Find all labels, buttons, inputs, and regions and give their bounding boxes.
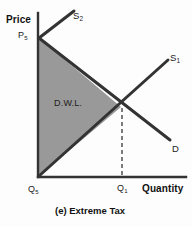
quantity-label-q5: Q5 <box>28 185 38 194</box>
curve-label-s2-base: S <box>73 10 79 21</box>
price-axis-title: Price <box>6 15 31 25</box>
curve-label-s1-base: S <box>170 52 176 63</box>
quantity-axis-title: Quantity <box>142 184 183 194</box>
quantity-label-q5-base: Q <box>28 184 35 194</box>
economics-figure: Price Quantity P5 Q5 Q1 S2 S1 D D.W.L. (… <box>0 0 192 227</box>
quantity-label-q1: Q1 <box>117 184 127 193</box>
quantity-label-q5-subscript: 5 <box>35 188 38 195</box>
quantity-label-q1-subscript: 1 <box>124 187 127 194</box>
price-label-p5: P5 <box>18 31 27 40</box>
curve-label-s2: S2 <box>73 11 83 21</box>
curve-label-s1-subscript: 1 <box>177 57 181 64</box>
curve-label-s1: S1 <box>170 53 180 63</box>
figure-caption: (e) Extreme Tax <box>55 206 125 216</box>
curve-label-d: D <box>172 144 179 154</box>
dwl-area-label: D.W.L. <box>54 99 82 108</box>
curve-label-s2-subscript: 2 <box>80 15 84 22</box>
quantity-label-q1-base: Q <box>117 183 124 193</box>
price-label-p5-subscript: 5 <box>24 34 27 41</box>
supply-curve-s2 <box>39 11 74 38</box>
